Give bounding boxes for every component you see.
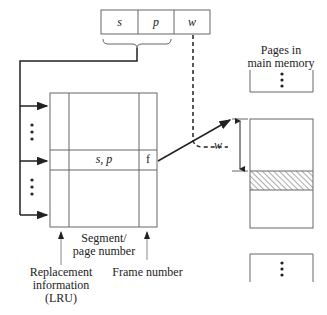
memory-frame-target [250,119,313,228]
replacement-label: Replacement information (LRU) [18,266,104,305]
ellipsis-dots-icon [30,123,33,195]
offset-dashed-line [193,35,228,147]
address-field-w: w [174,16,210,29]
memory-frame-top [250,70,313,92]
lookup-line [20,48,137,215]
address-field-s: s [101,16,138,29]
pages-in-memory-label: Pages in main memory [235,44,327,70]
table-entry-frame: f [139,153,157,166]
offset-label: w [208,139,228,152]
segment-page-label: Segment/ page number [69,232,139,258]
address-field-p: p [138,16,174,29]
frame-number-label: Frame number [110,266,185,279]
memory-frame-bottom [250,254,313,282]
brace [103,39,171,48]
table-entry-key: s, p [69,153,139,166]
